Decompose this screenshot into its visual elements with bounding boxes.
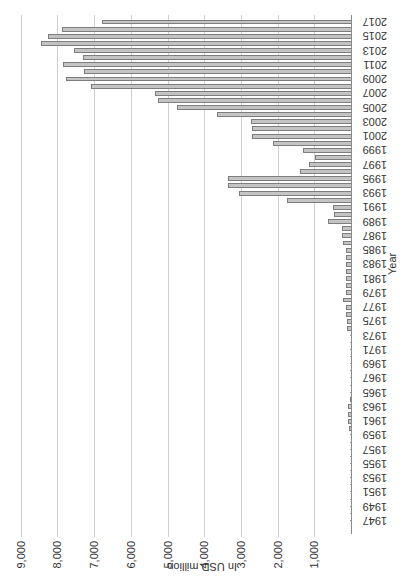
x-tick-label: 2015 xyxy=(363,30,387,42)
x-tick-label: 1953 xyxy=(363,472,387,484)
x-tick-label: 1963 xyxy=(363,401,387,413)
gridline xyxy=(131,15,132,537)
bar-2004 xyxy=(217,112,351,117)
x-tick-label: 1993 xyxy=(363,187,387,199)
x-axis-title: Year xyxy=(386,253,398,275)
x-tick-label: 1947 xyxy=(363,515,387,527)
bar-1994 xyxy=(228,184,351,189)
bar-1949 xyxy=(350,506,351,507)
bar-1981 xyxy=(346,276,351,281)
bar-1995 xyxy=(228,176,351,181)
bar-1989 xyxy=(328,219,351,224)
bar-1998 xyxy=(315,155,351,160)
bar-1957 xyxy=(350,449,351,450)
x-tick-label: 1997 xyxy=(363,159,387,171)
x-tick-label: 2007 xyxy=(363,87,387,99)
x-tick-label: 1971 xyxy=(363,344,387,356)
bar-1963 xyxy=(348,405,351,410)
x-tick-label: 1989 xyxy=(363,216,387,228)
bar-1961 xyxy=(348,419,351,424)
bar-1997 xyxy=(309,162,351,167)
bar-2013 xyxy=(74,48,351,53)
bar-1969 xyxy=(350,363,351,364)
bar-1975 xyxy=(347,319,351,324)
bar-1991 xyxy=(333,205,351,210)
bar-1999 xyxy=(303,148,351,153)
x-tick-label: 2017 xyxy=(363,16,387,28)
bar-1985 xyxy=(346,248,351,253)
x-tick-label: 2013 xyxy=(363,45,387,57)
gridline xyxy=(21,15,22,537)
bar-1974 xyxy=(347,326,351,331)
x-tick-label: 1967 xyxy=(363,372,387,384)
x-tick-label: 1965 xyxy=(363,387,387,399)
bar-1956 xyxy=(350,456,351,457)
bar-2011 xyxy=(63,62,351,67)
bar-1964 xyxy=(350,397,351,402)
bar-1993 xyxy=(239,191,351,196)
bar-2009 xyxy=(66,77,351,82)
y-tick-label: 9,000 xyxy=(15,541,27,569)
bar-1954 xyxy=(350,470,351,471)
bar-2016 xyxy=(62,27,351,32)
x-tick-label: 1983 xyxy=(363,258,387,270)
x-tick-label: 2009 xyxy=(363,73,387,85)
bar-1968 xyxy=(350,370,351,371)
x-tick-label: 1961 xyxy=(363,415,387,427)
bar-1996 xyxy=(300,169,351,174)
x-tick-label: 1957 xyxy=(363,444,387,456)
bar-1984 xyxy=(346,255,351,260)
bar-1992 xyxy=(287,198,351,203)
x-tick-label: 1991 xyxy=(363,201,387,213)
bar-1958 xyxy=(350,442,351,443)
x-tick-label: 1999 xyxy=(363,144,387,156)
bar-1967 xyxy=(350,377,351,378)
bar-1947 xyxy=(350,520,351,521)
bar-1948 xyxy=(350,513,351,514)
bar-1971 xyxy=(350,349,351,350)
bar-1977 xyxy=(346,305,351,310)
rotated-chart-canvas: 1,0002,0003,0004,0005,0006,0007,0008,000… xyxy=(0,0,406,581)
bar-1959 xyxy=(350,434,351,435)
bar-2001 xyxy=(252,134,351,139)
x-tick-label: 2005 xyxy=(363,102,387,114)
y-tick-label: 1,000 xyxy=(308,541,320,569)
bar-1970 xyxy=(350,356,351,357)
x-axis-line xyxy=(351,15,352,534)
x-tick-label: 1995 xyxy=(363,173,387,185)
bar-1990 xyxy=(334,212,351,217)
y-tick-label: 7,000 xyxy=(88,541,100,569)
x-tick-label: 1955 xyxy=(363,458,387,470)
bar-2017 xyxy=(102,20,351,25)
x-tick-label: 1951 xyxy=(363,487,387,499)
y-tick-label: 2,000 xyxy=(272,541,284,569)
bar-2015 xyxy=(48,34,351,39)
bar-1986 xyxy=(343,241,351,246)
bar-2010 xyxy=(84,69,351,74)
x-tick-label: 1973 xyxy=(363,330,387,342)
bar-1973 xyxy=(350,335,351,336)
x-tick-label: 1959 xyxy=(363,429,387,441)
bar-1983 xyxy=(346,262,351,267)
bar-1955 xyxy=(350,463,351,464)
bar-1987 xyxy=(342,233,351,238)
x-tick-label: 1985 xyxy=(363,244,387,256)
x-tick-label: 1977 xyxy=(363,301,387,313)
x-tick-label: 1987 xyxy=(363,230,387,242)
bar-1952 xyxy=(350,484,351,485)
bar-2012 xyxy=(83,55,351,60)
bar-2014 xyxy=(41,41,351,46)
bar-1965 xyxy=(350,392,351,393)
gridline xyxy=(94,15,95,537)
x-tick-label: 1969 xyxy=(363,358,387,370)
bar-2006 xyxy=(158,98,351,103)
bar-1978 xyxy=(343,298,351,303)
bar-1972 xyxy=(350,342,351,343)
bar-1950 xyxy=(350,499,351,500)
bar-1966 xyxy=(350,385,351,386)
bar-1980 xyxy=(346,283,351,288)
bar-2005 xyxy=(177,105,351,110)
plot-area: 1,0002,0003,0004,0005,0006,0007,0008,000… xyxy=(0,0,406,581)
y-tick-label: 8,000 xyxy=(51,541,63,569)
bar-1976 xyxy=(346,312,351,317)
